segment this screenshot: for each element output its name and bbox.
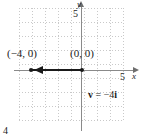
gridline-horizontal	[19, 36, 123, 37]
vector-equation-coefficient: −4	[104, 89, 115, 100]
vector-equation: v = −4i	[88, 90, 117, 100]
vector-equation-basis: i	[114, 89, 117, 100]
gridline-horizontal	[19, 106, 123, 107]
point-label-minus-four-zero: (−4, 0)	[7, 48, 37, 59]
gridline-horizontal	[19, 22, 123, 23]
point-label-origin: (0, 0)	[70, 48, 94, 59]
vector-arrowhead-icon	[34, 66, 43, 74]
coordinate-grid	[19, 8, 123, 120]
gridline-horizontal	[19, 78, 123, 79]
gridline-horizontal	[19, 8, 123, 9]
y-axis-tick-label: 5	[73, 9, 78, 19]
gridline-vertical	[123, 8, 124, 120]
figure-number: 4	[3, 126, 8, 136]
gridline-horizontal	[19, 120, 123, 121]
x-axis-label: x	[132, 72, 136, 81]
x-axis-tick-label: 5	[120, 72, 125, 82]
vector-diagram: (−4, 0) (0, 0) y 5 5 x v = −4i 4	[0, 0, 145, 140]
